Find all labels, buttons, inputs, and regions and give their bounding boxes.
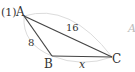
side-bc	[52, 56, 112, 57]
next-figure-fragment: A	[127, 22, 135, 35]
side-label-ac: 16	[66, 22, 79, 33]
vertex-label-a: A	[15, 5, 25, 19]
vertex-label-c: C	[112, 52, 121, 66]
triangle-diagram: (1) A B C 16 8 x A	[0, 0, 135, 72]
vertex-label-b: B	[44, 57, 53, 71]
problem-number: (1)	[1, 6, 17, 19]
side-label-bc: x	[79, 58, 86, 71]
side-label-ab: 8	[28, 37, 34, 48]
